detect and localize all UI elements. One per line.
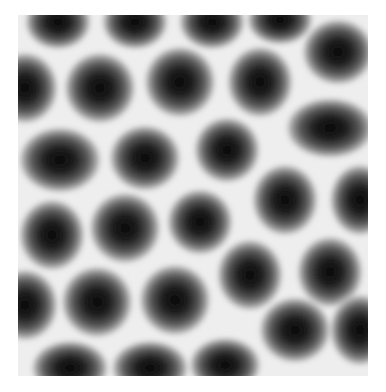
lattice-blob bbox=[257, 295, 332, 365]
blob-lattice bbox=[18, 15, 368, 376]
lattice-blob bbox=[87, 190, 162, 265]
lattice-blob bbox=[18, 197, 87, 272]
lattice-blob bbox=[107, 123, 182, 193]
lattice-blob bbox=[59, 264, 134, 339]
lattice-blob bbox=[137, 262, 212, 337]
lattice-blob bbox=[165, 187, 235, 257]
lattice-blob bbox=[250, 162, 320, 237]
lattice-blob bbox=[18, 125, 104, 195]
micrograph-frame bbox=[18, 15, 368, 376]
lattice-blob bbox=[142, 44, 217, 119]
lattice-blob bbox=[192, 115, 262, 185]
lattice-blob bbox=[225, 44, 295, 119]
lattice-blob bbox=[62, 50, 137, 125]
